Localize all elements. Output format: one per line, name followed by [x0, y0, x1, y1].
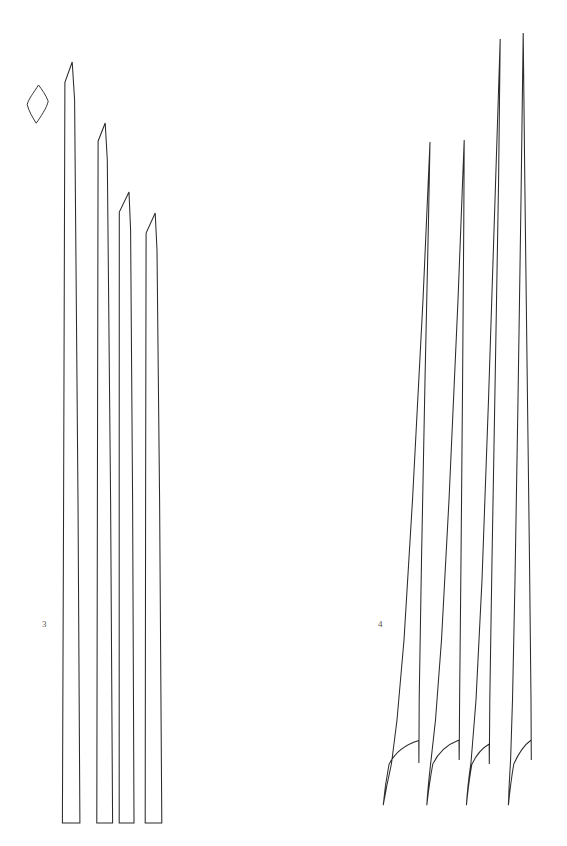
figure-3-blade-2 [97, 123, 113, 823]
figure-4-blade-4 [508, 33, 531, 805]
figure-3-blade-3 [119, 192, 134, 823]
figure-3-blade-4 [145, 213, 162, 823]
figure-label-4: 4 [378, 620, 383, 629]
figure-3-group [62, 62, 161, 823]
leaf-cross-section-shape [27, 85, 48, 123]
figure-plate [0, 0, 567, 846]
figure-label-3: 3 [42, 620, 47, 629]
figure-4-blade-3 [466, 39, 500, 805]
figure-4-blade-2 [427, 140, 464, 805]
figure-4-group [383, 33, 531, 805]
figure-4-blade-1 [383, 142, 430, 805]
figure-3-blade-1 [62, 62, 80, 823]
line-drawing-canvas [0, 0, 567, 846]
